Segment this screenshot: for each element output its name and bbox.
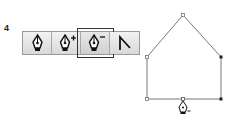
anchor-point-bottom-right[interactable]	[220, 98, 223, 101]
anchor-point-left-shoulder[interactable]	[146, 56, 149, 59]
pen-minus-cursor-icon	[179, 101, 191, 114]
artboard-canvas[interactable]	[0, 0, 232, 118]
anchor-point-bottom-left[interactable]	[146, 98, 149, 101]
anchor-point-apex[interactable]	[182, 14, 185, 17]
anchor-point-bottom-mid[interactable]	[182, 98, 185, 101]
house-path[interactable]	[147, 15, 221, 99]
anchor-point-right-shoulder[interactable]	[220, 56, 223, 59]
